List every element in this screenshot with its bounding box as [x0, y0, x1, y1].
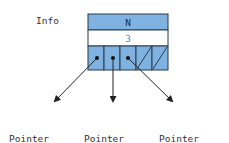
pointer-label-q-line1: Pointer [159, 133, 210, 143]
info-value: N [125, 17, 131, 28]
pointer-label-q: Pointer to node Q [159, 109, 210, 143]
pointer-label-o-line1: Pointer [9, 133, 60, 143]
pointer-label-p-line1: Pointer [84, 133, 135, 143]
pointer-label-p: Pointer to node P [84, 109, 135, 143]
arrow-to-node-o [55, 58, 97, 101]
count-value: 3 [125, 33, 131, 44]
pointer-label-o: Pointer to node O [9, 109, 60, 143]
